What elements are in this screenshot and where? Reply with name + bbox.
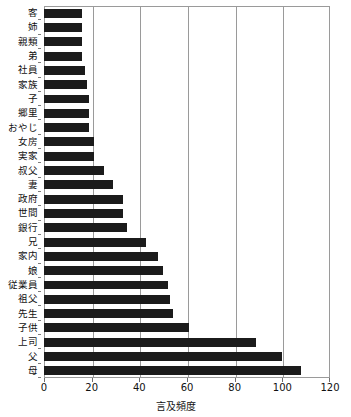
bar: [44, 338, 256, 347]
category-label: 政府: [18, 194, 38, 204]
category-label: 弟: [28, 51, 38, 61]
category-label: 実家: [18, 151, 38, 161]
category-label: 娘: [28, 266, 38, 276]
category-tick: [38, 77, 41, 78]
category-label: 母: [28, 366, 38, 376]
category-tick: [38, 348, 41, 349]
category-label: 祖父: [18, 294, 38, 304]
bar: [44, 309, 173, 318]
category-label: 子: [28, 94, 38, 104]
category-tick: [38, 162, 41, 163]
category-label: 客: [28, 8, 38, 18]
bar: [44, 223, 127, 232]
category-label: 世間: [18, 208, 38, 218]
category-label: 従業員: [8, 280, 38, 290]
category-tick: [38, 320, 41, 321]
category-label: 父: [28, 352, 38, 362]
bar: [44, 66, 85, 75]
bar: [44, 252, 158, 261]
category-label: 姉: [28, 22, 38, 32]
bar-chart: 客姉親類弟社員家族子郷里おやじ女房実家叔父妻政府世間銀行兄家内娘従業員祖父先生子…: [0, 0, 351, 417]
bar: [44, 9, 82, 18]
bar: [44, 80, 87, 89]
category-label: 叔父: [18, 166, 38, 176]
bar: [44, 152, 94, 161]
bar: [44, 281, 168, 290]
bars-layer: [44, 6, 330, 378]
category-label: 銀行: [18, 223, 38, 233]
category-label: 女房: [18, 137, 38, 147]
category-tick: [38, 19, 41, 20]
bar: [44, 123, 89, 132]
bar: [44, 137, 94, 146]
category-tick: [38, 134, 41, 135]
category-label: 兄: [28, 237, 38, 247]
category-tick: [38, 48, 41, 49]
category-tick: [38, 305, 41, 306]
x-tick-label: 120: [320, 383, 339, 393]
bar: [44, 366, 301, 375]
category-axis: 客姉親類弟社員家族子郷里おやじ女房実家叔父妻政府世間銀行兄家内娘従業員祖父先生子…: [0, 6, 41, 378]
category-label: 家内: [18, 251, 38, 261]
x-axis: 020406080100120: [44, 378, 330, 398]
bar: [44, 209, 123, 218]
bar: [44, 195, 123, 204]
category-label: 社員: [18, 65, 38, 75]
category-label: 親類: [18, 37, 38, 47]
category-tick: [38, 263, 41, 264]
x-tick-label: 80: [228, 383, 241, 393]
category-tick: [38, 234, 41, 235]
category-label: 上司: [18, 337, 38, 347]
category-tick: [38, 119, 41, 120]
category-tick: [38, 220, 41, 221]
x-axis-title: 言及頻度: [0, 398, 351, 413]
bar: [44, 295, 170, 304]
category-label: 郷里: [18, 108, 38, 118]
category-tick: [38, 377, 41, 378]
x-tick-label: 100: [273, 383, 292, 393]
category-label: おやじ: [8, 123, 38, 133]
x-tick-label: 0: [41, 383, 47, 393]
category-tick: [38, 191, 41, 192]
category-label: 妻: [28, 180, 38, 190]
category-tick: [38, 34, 41, 35]
category-tick: [38, 334, 41, 335]
category-tick: [38, 62, 41, 63]
category-tick: [38, 91, 41, 92]
category-label: 家族: [18, 80, 38, 90]
category-label: 子供: [18, 323, 38, 333]
bar: [44, 266, 163, 275]
category-tick: [38, 277, 41, 278]
bar: [44, 95, 89, 104]
x-tick-label: 40: [133, 383, 146, 393]
bar: [44, 23, 82, 32]
bar: [44, 352, 282, 361]
category-label: 先生: [18, 309, 38, 319]
category-tick: [38, 105, 41, 106]
category-tick: [38, 248, 41, 249]
bar: [44, 166, 104, 175]
bar: [44, 37, 82, 46]
bar: [44, 238, 146, 247]
bar: [44, 323, 189, 332]
bar: [44, 109, 89, 118]
category-tick: [38, 148, 41, 149]
category-tick: [38, 205, 41, 206]
bar: [44, 180, 113, 189]
x-tick-label: 60: [181, 383, 194, 393]
category-tick: [38, 177, 41, 178]
x-tick-label: 20: [85, 383, 98, 393]
category-tick: [38, 363, 41, 364]
bar: [44, 52, 82, 61]
category-tick: [38, 291, 41, 292]
